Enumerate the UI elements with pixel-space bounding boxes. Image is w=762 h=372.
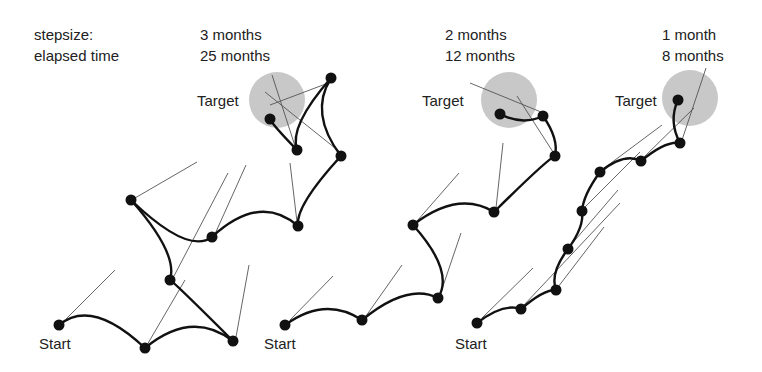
step-point — [577, 206, 588, 217]
tangent-line — [584, 152, 640, 208]
step-point — [228, 336, 239, 347]
tangent-line — [236, 265, 249, 337]
panel-1 — [54, 72, 347, 354]
tangent-line — [603, 125, 662, 169]
step-point — [126, 195, 137, 206]
trajectory-arc — [362, 293, 438, 320]
step-point — [140, 343, 151, 354]
trajectory-arc — [582, 172, 600, 211]
tangent-line — [135, 162, 197, 198]
tangent-line — [290, 276, 333, 320]
start-point — [54, 320, 65, 331]
trajectory-arc — [413, 204, 494, 225]
trajectory-arc — [554, 249, 568, 290]
step-point — [326, 73, 337, 84]
trajectory-arc — [285, 309, 362, 325]
tangent-line — [558, 227, 604, 287]
step-point — [489, 207, 500, 218]
end-point — [495, 109, 506, 120]
tangent-line — [66, 270, 115, 319]
trajectory-arc — [477, 308, 521, 323]
trajectory-arc — [641, 143, 680, 161]
step-point — [550, 151, 561, 162]
trajectory-arc — [212, 212, 298, 237]
trajectory-arc — [145, 327, 233, 348]
step-point — [563, 244, 574, 255]
step-point — [433, 293, 444, 304]
trajectory-arc — [413, 225, 443, 298]
step-point — [357, 315, 368, 326]
trajectory-arc — [59, 315, 145, 348]
tangent-line — [366, 265, 402, 316]
target-zone — [662, 70, 718, 126]
step-point — [538, 111, 549, 122]
start-point — [472, 318, 483, 329]
step-point — [636, 156, 647, 167]
tangent-line — [290, 163, 297, 222]
trajectory-arc — [131, 200, 171, 280]
trajectory-arc — [298, 156, 341, 226]
trajectory-diagram — [0, 0, 762, 372]
tangent-line — [496, 143, 503, 208]
trajectory-arc — [521, 290, 556, 309]
step-point — [516, 304, 527, 315]
step-point — [292, 145, 303, 156]
trajectory-arc — [494, 156, 555, 212]
step-point — [675, 138, 686, 149]
tangent-line — [524, 203, 620, 305]
step-point — [408, 220, 419, 231]
trajectory-arc — [568, 211, 582, 249]
tangent-line — [417, 173, 459, 221]
trajectory-arc — [600, 158, 641, 172]
end-point — [673, 95, 684, 106]
step-point — [336, 151, 347, 162]
trajectory-arc — [170, 280, 233, 341]
target-zone — [249, 72, 305, 128]
trajectory-arc — [131, 200, 212, 241]
end-point — [265, 114, 276, 125]
start-point — [280, 320, 291, 331]
tangent-line — [174, 173, 228, 276]
step-point — [595, 167, 606, 178]
step-point — [207, 232, 218, 243]
trajectory-arc — [322, 78, 341, 156]
trajectory-arc — [543, 116, 556, 156]
step-point — [165, 275, 176, 286]
step-point — [293, 221, 304, 232]
step-point — [551, 285, 562, 296]
